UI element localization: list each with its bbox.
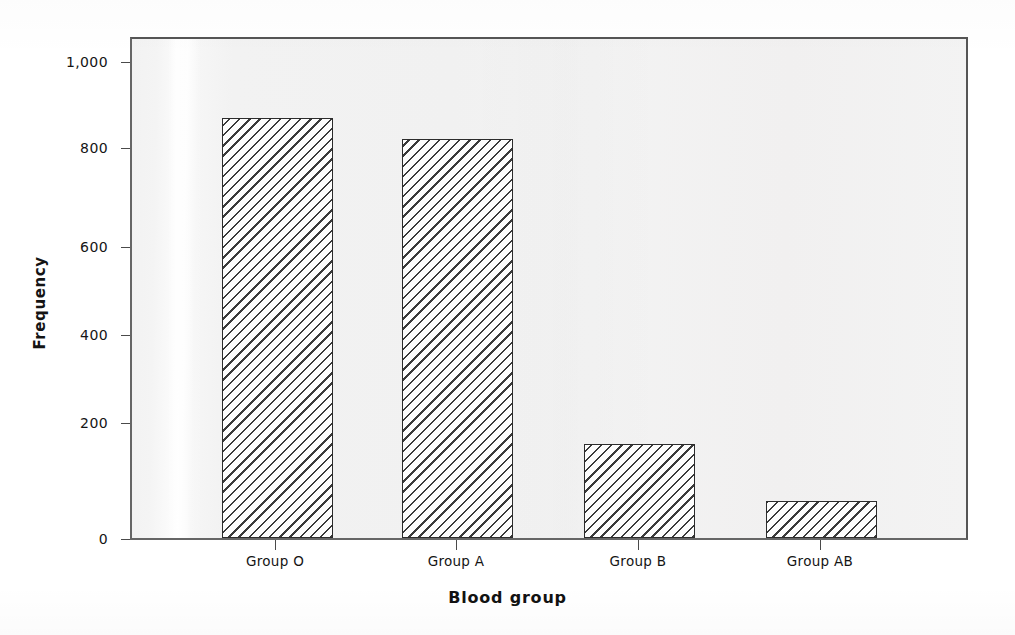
y-tick-label-200: 200 — [18, 415, 108, 431]
plot-area — [130, 37, 968, 540]
x-tick-label-group-o: Group O — [175, 553, 375, 569]
y-tick-mark-800 — [121, 148, 130, 149]
x-tick-mark-group-a — [456, 540, 457, 550]
y-axis-title: Frequency — [31, 48, 49, 218]
x-tick-label-group-b: Group B — [538, 553, 738, 569]
y-tick-label-0: 0 — [18, 531, 108, 547]
x-tick-mark-group-b — [638, 540, 639, 550]
y-tick-label-800: 800 — [18, 140, 108, 156]
x-tick-label-group-a: Group A — [356, 553, 556, 569]
y-tick-mark-1000 — [121, 62, 130, 63]
x-tick-mark-group-ab — [820, 540, 821, 550]
x-tick-mark-group-o — [275, 540, 276, 550]
y-tick-mark-600 — [121, 247, 130, 248]
bar-group-ab — [766, 501, 877, 538]
y-tick-mark-200 — [121, 423, 130, 424]
y-tick-label-1000: 1,000 — [18, 54, 108, 70]
y-tick-mark-400 — [121, 335, 130, 336]
y-tick-mark-0 — [121, 539, 130, 540]
bar-group-b — [584, 444, 695, 538]
x-tick-label-group-ab: Group AB — [720, 553, 920, 569]
y-tick-label-600: 600 — [18, 239, 108, 255]
bar-chart-figure: Frequency 1,000 800 600 400 200 0 Group … — [0, 0, 1015, 635]
bar-group-a — [402, 139, 513, 538]
y-tick-label-400: 400 — [18, 327, 108, 343]
bar-group-o — [222, 118, 333, 538]
x-axis-title: Blood group — [0, 588, 1015, 607]
